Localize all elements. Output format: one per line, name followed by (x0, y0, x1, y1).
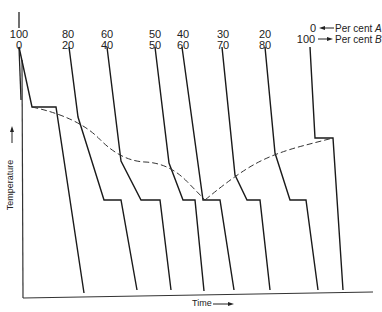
label-50-b: 50 (140, 40, 170, 51)
legend-percent-b: Per cent B (335, 34, 382, 45)
cooling-curves (19, 47, 343, 293)
legend-var-b: B (375, 34, 382, 45)
label-20-b: 20 (53, 40, 83, 51)
legend-percent-a: Per cent A (335, 23, 382, 34)
cooling-curve-20-80 (265, 47, 318, 290)
y-axis (22, 60, 23, 298)
legend-arrowhead-b (327, 37, 333, 41)
x-axis-title: Time (192, 298, 212, 308)
label-100-b: 100 (294, 34, 318, 45)
y-label-arrowhead (10, 126, 14, 132)
label-40-b: 40 (92, 40, 122, 51)
label-80-b: 80 (250, 40, 280, 51)
liquidus-right-dashed (205, 138, 333, 200)
cooling-curve-30-70 (222, 47, 270, 290)
y-axis-title: Temperature (5, 155, 15, 215)
cooling-curve-50-50 (155, 47, 204, 291)
cooling-curve-0-100 (310, 47, 343, 290)
cooling-curve-60-40 (107, 47, 171, 290)
x-label-arrowhead (228, 302, 234, 306)
legend-var-a: A (375, 23, 382, 34)
cooling-curve-80-20 (69, 47, 137, 290)
label-70-b: 70 (208, 40, 238, 51)
label-60-b: 60 (168, 40, 198, 51)
label-0-b: 0 (4, 40, 34, 51)
